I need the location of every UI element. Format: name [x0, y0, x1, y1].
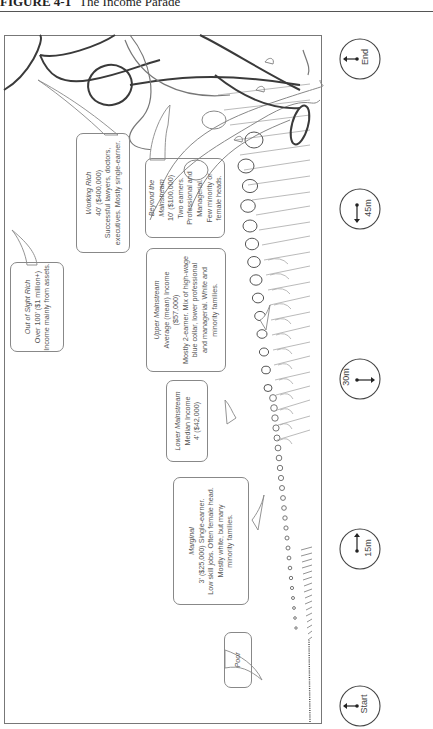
clock-label: End: [360, 49, 370, 65]
clock-face-icon: [339, 528, 381, 570]
clock-label: Start: [359, 694, 369, 713]
callout-title: Working Rich: [84, 172, 93, 215]
callout-marginal: Marginal3' ($25,000) Single-earner.Low s…: [173, 477, 249, 605]
clock-30m: 30m: [339, 358, 381, 400]
callout-upper-mainstream: Upper MainstreamAverage (mean) Income($5…: [146, 248, 226, 372]
clock-end: End: [339, 38, 381, 80]
clock-label: 15m: [363, 539, 373, 557]
callout-beyond-mainstream: Beyond theMainstream10' ($100,000)Two ea…: [145, 158, 225, 238]
callout-title: Out of Sight Rich: [23, 280, 32, 334]
clock-label: 45m: [363, 199, 373, 217]
clock-label: 30m: [341, 368, 351, 386]
callout-poor: Poor: [224, 632, 252, 688]
clock-start: Start: [339, 685, 381, 727]
callout-lower-mainstream: Lower MainstreamMedian Income4' ($42,000…: [166, 380, 208, 462]
clock-face-icon: [339, 188, 381, 230]
callout-working-rich: Working Rich40' ($400,000)Successful law…: [76, 133, 130, 253]
callout-out-of-sight-rich: Out of Sight RichOver 100' ($1 million+)…: [10, 262, 64, 352]
clock-15m: 15m: [339, 528, 381, 570]
clock-45m: 45m: [339, 188, 381, 230]
